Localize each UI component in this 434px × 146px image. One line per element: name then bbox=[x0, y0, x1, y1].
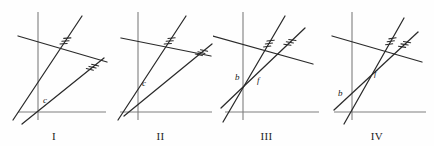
panel-1: cI bbox=[0, 0, 108, 146]
panel-2-caption: II bbox=[108, 130, 213, 142]
transversal-segment bbox=[332, 36, 422, 62]
parallel-line-b bbox=[22, 58, 104, 124]
parallel-line-a-segment bbox=[118, 16, 186, 120]
parallel-line-a bbox=[118, 16, 186, 120]
parallel-line-b bbox=[221, 28, 305, 108]
transversal-segment bbox=[121, 38, 211, 56]
transversal bbox=[332, 36, 422, 62]
parallel-line-a-segment bbox=[13, 16, 82, 120]
geometry-figure: cIcIIbfIIIbfIV bbox=[0, 0, 434, 146]
parallel-line-b-hash-mark bbox=[284, 44, 291, 45]
parallel-line-a-hash-mark bbox=[64, 38, 71, 39]
transversal bbox=[213, 36, 313, 64]
parallel-line-a-hash-mark bbox=[166, 41, 173, 42]
parallel-line-a-hash-mark bbox=[168, 38, 175, 39]
parallel-line-a-hash-mark bbox=[60, 44, 67, 45]
point-b-label: b bbox=[235, 72, 240, 82]
parallel-line-b-hash-mark bbox=[403, 42, 410, 43]
panel-3-caption: III bbox=[213, 130, 320, 142]
transversal bbox=[121, 38, 211, 56]
transversal-segment bbox=[213, 36, 313, 64]
parallel-line-a-hash-mark bbox=[265, 43, 272, 44]
panel-2: cII bbox=[108, 0, 213, 146]
panel-1-caption: I bbox=[0, 130, 108, 142]
parallel-line-b-hash-mark bbox=[286, 42, 293, 43]
parallel-line-a-hash-mark bbox=[386, 44, 393, 45]
point-f-label: f bbox=[257, 75, 261, 85]
point-c-label: c bbox=[43, 95, 47, 105]
parallel-line-a-hash-mark bbox=[264, 46, 271, 47]
parallel-line-b-hash-mark bbox=[289, 40, 296, 41]
point-b-label: b bbox=[338, 88, 343, 98]
parallel-line-a-segment bbox=[223, 16, 285, 122]
parallel-line-b-segment bbox=[22, 58, 104, 124]
parallel-line-b-hash-mark bbox=[401, 44, 408, 45]
parallel-line-b-hash-mark bbox=[398, 46, 405, 47]
parallel-line-a-hash-mark bbox=[164, 44, 171, 45]
parallel-line-a bbox=[13, 16, 82, 120]
panel-3: bfIII bbox=[213, 0, 320, 146]
parallel-line-a-hash-mark bbox=[267, 40, 274, 41]
parallel-line-a-hash-mark bbox=[389, 38, 396, 39]
parallel-line-a-hash-mark bbox=[62, 41, 69, 42]
transversal bbox=[18, 36, 107, 62]
panel-4-caption: IV bbox=[320, 130, 434, 142]
parallel-line-b bbox=[124, 44, 212, 116]
parallel-line-a-hash-mark bbox=[387, 41, 394, 42]
panel-4: bfIV bbox=[320, 0, 434, 146]
parallel-line-a bbox=[223, 16, 285, 122]
transversal-segment bbox=[18, 36, 107, 62]
point-c-label: c bbox=[142, 78, 146, 88]
